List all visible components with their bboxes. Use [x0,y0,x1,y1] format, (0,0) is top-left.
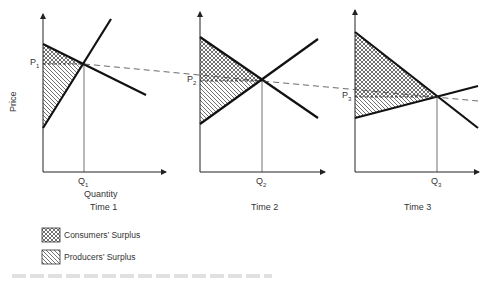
legend-swatch-consumers [42,228,60,242]
time-label-3: Time 3 [404,202,431,212]
y-axis-label: Price [8,91,18,112]
cropped-caption [12,274,272,278]
legend-swatch-producers [42,250,60,264]
legend-label-consumers: Consumers’ Surplus [64,230,140,240]
price-label-1: P1 [30,57,39,69]
x-axis-label: Quantity [84,189,118,199]
time-label-1: Time 1 [90,202,117,212]
legend-label-producers: Producers’ Surplus [64,252,136,262]
panel-time-2 [200,12,325,172]
quantity-label-2: Q2 [256,176,266,188]
price-label-3: P3 [342,90,351,102]
quantity-label-3: Q3 [431,176,441,188]
price-label-2: P2 [187,74,196,86]
quantity-label-1: Q1 [78,176,88,188]
panel-time-1 [43,14,166,172]
time-label-2: Time 2 [251,202,278,212]
